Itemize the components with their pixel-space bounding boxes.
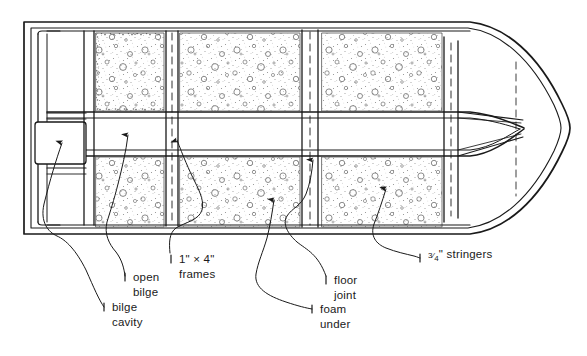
label-floor-joint-line2: joint	[333, 289, 357, 301]
label-bilge-cavity-line1: bilge	[112, 301, 137, 313]
label-open-bilge-line1: open	[133, 271, 159, 283]
label-floor-joint-line1: floor	[334, 274, 357, 286]
foam-block	[96, 157, 164, 227]
bilge-cavity-box	[35, 113, 86, 174]
stringer	[444, 37, 458, 222]
label-foam-under-line1: foam	[320, 303, 346, 315]
label-frames-line2: frames	[179, 268, 215, 280]
boat-hull-diagram: bilge cavity open bilge 1" × 4" frames f…	[0, 0, 587, 356]
foam-compartments-upper	[96, 33, 442, 111]
label-foam-under-line2: under	[320, 318, 350, 330]
label-texts: bilge cavity open bilge 1" × 4" frames f…	[112, 248, 492, 330]
label-bilge-cavity: bilge cavity	[112, 301, 143, 328]
foam-compartments-lower	[96, 157, 442, 227]
label-open-bilge-line2: bilge	[133, 286, 158, 298]
stringers-suffix: " stringers	[439, 248, 493, 260]
foam-block	[96, 33, 164, 111]
label-open-bilge: open bilge	[133, 271, 159, 298]
foam-block	[180, 33, 300, 111]
bow-frames	[458, 112, 523, 156]
label-stringers: 3⁄4" stringers	[428, 248, 492, 263]
label-bilge-cavity-line2: cavity	[112, 316, 143, 328]
floor-joint-lower	[47, 129, 524, 156]
label-floor-joint: floor joint	[333, 274, 357, 301]
label-frames: 1" × 4" frames	[179, 253, 215, 280]
label-foam-under: foam under	[320, 303, 350, 330]
label-frames-line1: 1" × 4"	[179, 253, 214, 265]
foam-block	[322, 33, 442, 111]
label-stringers-line1: 3⁄4" stringers	[428, 248, 492, 263]
foam-block	[322, 157, 442, 227]
diagram-canvas: bilge cavity open bilge 1" × 4" frames f…	[0, 0, 587, 356]
stringer	[166, 31, 178, 226]
floor-joint-upper	[47, 112, 524, 129]
